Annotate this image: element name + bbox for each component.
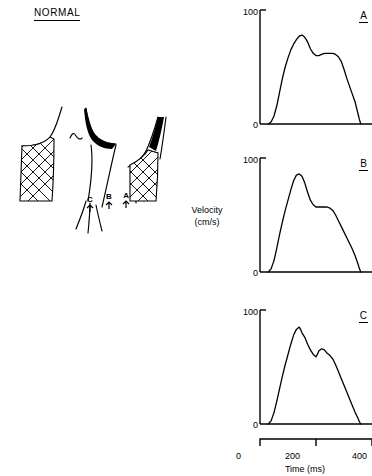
y-axis-label-line2: (cm/s): [176, 216, 238, 228]
panel-a-letter: A: [359, 10, 368, 23]
panel-a-y-min: 0: [242, 121, 258, 130]
sample-site-a-arrow-icon: [121, 200, 131, 208]
panel-b-letter: B: [359, 158, 368, 171]
panel-c-letter: C: [359, 310, 368, 323]
sample-site-a-text: A: [123, 191, 128, 200]
panel-c-y-min: 0: [242, 421, 258, 430]
y-axis-label: Velocity (cm/s): [176, 204, 238, 228]
figure-root: NORMAL: [0, 0, 372, 476]
time-tick-200: 200: [285, 452, 300, 461]
waveform-panel-c: 100 0 C: [236, 306, 372, 432]
sample-site-label-b: B: [104, 193, 114, 211]
waveform-panel-b: 100 0 B: [236, 154, 372, 280]
x-axis-label: Time (ms): [250, 464, 360, 474]
time-tick-0: 0: [236, 452, 241, 461]
panel-b-y-max: 100: [234, 156, 258, 165]
panel-a-velocity-trace: [268, 35, 360, 124]
panel-c-plot: [236, 306, 372, 432]
page-title: NORMAL: [34, 7, 80, 21]
panel-c-y-max: 100: [234, 308, 258, 317]
panel-b-velocity-trace: [268, 174, 360, 272]
sample-site-c-arrow-icon: [85, 204, 95, 212]
sample-site-label-c: C: [85, 196, 95, 214]
time-axis: 0 200 400 Time (ms): [236, 436, 372, 474]
carotid-bifurcation-diagram: [8, 105, 198, 235]
waveform-panel-a: 100 0 A: [236, 6, 372, 132]
sample-site-label-a: A: [121, 192, 131, 210]
time-tick-400: 400: [352, 452, 367, 461]
panel-b-y-min: 0: [242, 269, 258, 278]
panel-a-y-max: 100: [234, 8, 258, 17]
plaque-hatch-right: [108, 125, 178, 231]
panel-b-plot: [236, 154, 372, 280]
plaque-solid-left: [84, 108, 116, 149]
sample-site-b-arrow-icon: [104, 201, 114, 209]
plaque-hatch-left: [8, 105, 68, 231]
time-axis-ruler: [236, 436, 372, 450]
y-axis-label-line1: Velocity: [176, 204, 238, 216]
sample-site-b-text: B: [106, 192, 112, 201]
panel-c-velocity-trace: [268, 327, 360, 424]
sample-site-c-text: C: [87, 195, 93, 204]
panel-a-plot: [236, 6, 372, 132]
